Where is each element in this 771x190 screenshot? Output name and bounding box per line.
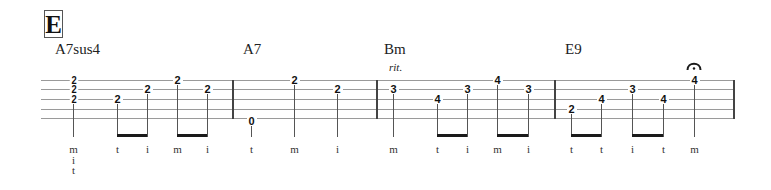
- fermata-icon: [686, 59, 702, 71]
- fret-number: 2: [69, 94, 78, 104]
- barline-2: [376, 80, 378, 119]
- section-marker: E: [44, 10, 63, 38]
- eighth-beam: [177, 134, 208, 137]
- fret-number: 4: [433, 94, 443, 104]
- picking-finger: m: [492, 144, 504, 155]
- staff-line-3: [41, 99, 734, 100]
- fret-number: 4: [659, 94, 669, 104]
- note-stem: [177, 80, 178, 137]
- picking-finger: m: [689, 144, 701, 155]
- note-stem: [337, 89, 338, 137]
- picking-finger: i: [202, 144, 214, 155]
- barline-3: [554, 80, 556, 119]
- note-stem: [147, 89, 148, 137]
- eighth-beam: [437, 134, 468, 137]
- fret-number: 2: [567, 104, 577, 114]
- fret-number: 4: [690, 75, 700, 85]
- note-stem: [207, 89, 208, 137]
- picking-finger: i: [462, 144, 474, 155]
- picking-finger: t: [432, 144, 444, 155]
- note-stem: [467, 89, 468, 137]
- fret-number: 2: [333, 84, 343, 94]
- note-stem: [632, 89, 633, 137]
- picking-finger: t: [246, 144, 258, 155]
- section-label: E: [45, 12, 62, 37]
- ritardando-marking: rit.: [389, 62, 402, 73]
- picking-finger: m: [172, 144, 184, 155]
- fret-number: 0: [247, 116, 257, 126]
- picking-finger: i: [523, 144, 535, 155]
- fret-number: 2: [173, 75, 183, 85]
- picking-finger: i: [627, 144, 639, 155]
- fret-number: 3: [389, 84, 399, 94]
- fret-number: 4: [493, 75, 503, 85]
- note-stem: [497, 80, 498, 137]
- chord-name-m3: Bm: [384, 42, 406, 57]
- fret-number: 3: [463, 84, 473, 94]
- eighth-beam: [632, 134, 664, 137]
- picking-finger: t: [566, 144, 578, 155]
- picking-finger: t: [658, 144, 670, 155]
- picking-finger: m: [289, 144, 301, 155]
- chord-name-m2: A7: [243, 42, 261, 57]
- barline-final: [733, 80, 735, 119]
- note-stem: [694, 80, 695, 137]
- picking-finger: t: [68, 165, 80, 176]
- eighth-beam: [497, 134, 529, 137]
- fret-number: 2: [113, 94, 123, 104]
- fret-number: 4: [597, 94, 607, 104]
- staff-line-4: [41, 109, 734, 110]
- picking-finger: t: [596, 144, 608, 155]
- eighth-beam: [571, 134, 602, 137]
- note-stem: [528, 89, 529, 137]
- fret-number: 3: [524, 84, 534, 94]
- chord-name-m1: A7sus4: [55, 42, 100, 57]
- fret-number: 2: [290, 75, 300, 85]
- barline-1: [232, 80, 234, 119]
- chord-name-m4: E9: [565, 42, 582, 57]
- fret-number: 3: [628, 84, 638, 94]
- picking-finger: i: [332, 144, 344, 155]
- fret-number: 2: [203, 84, 213, 94]
- staff-line-5: [41, 118, 734, 119]
- fret-number: 2: [143, 84, 153, 94]
- picking-finger: t: [112, 144, 124, 155]
- eighth-beam: [117, 134, 148, 137]
- picking-finger: m: [388, 144, 400, 155]
- note-stem: [294, 80, 295, 137]
- note-stem: [393, 89, 394, 137]
- picking-finger: i: [142, 144, 154, 155]
- staff-line-1: [41, 80, 734, 81]
